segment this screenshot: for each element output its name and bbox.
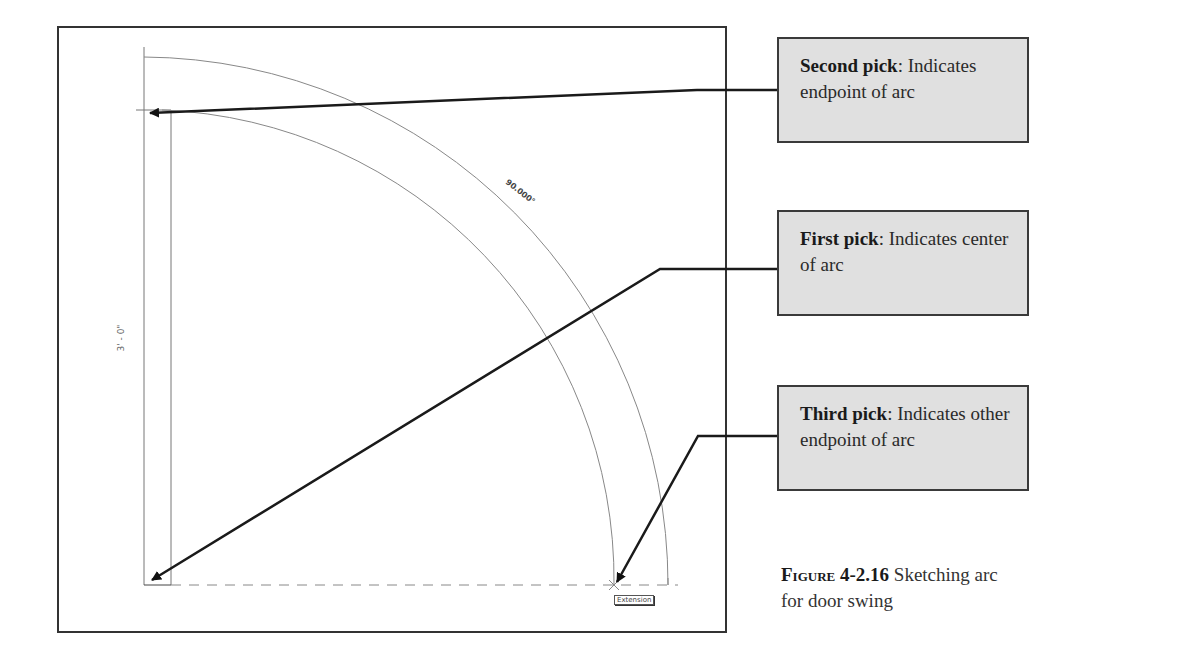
- snap-tooltip: Extension: [614, 595, 654, 605]
- callout-second-pick: Second pick: Indicates endpoint of arc: [777, 37, 1029, 143]
- figure-label: Figure: [781, 564, 835, 585]
- drawing-frame: [58, 27, 726, 632]
- callout-title: Third pick: [800, 403, 887, 424]
- figure-caption: Figure 4-2.16 Sketching arc for door swi…: [781, 562, 1001, 614]
- callout-third-pick: Third pick: Indicates other endpoint of …: [777, 385, 1029, 491]
- length-dimension-label: 3' - 0": [116, 324, 126, 351]
- callout-first-pick: First pick: Indicates center of arc: [777, 210, 1029, 316]
- callout-title: First pick: [800, 228, 879, 249]
- callout-title: Second pick: [800, 55, 898, 76]
- figure-number: 4-2.16: [840, 564, 889, 585]
